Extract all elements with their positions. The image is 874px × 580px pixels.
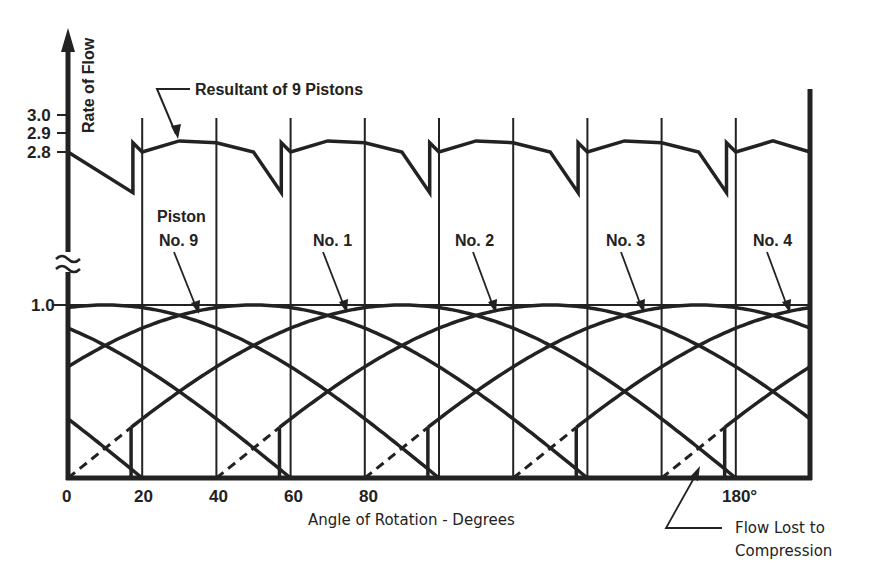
x-axis-title: Angle of Rotation - Degrees bbox=[308, 511, 515, 529]
piston-curve bbox=[725, 367, 810, 428]
resultant-annotation: Resultant of 9 Pistons bbox=[157, 81, 363, 139]
x-tick-60: 60 bbox=[284, 487, 303, 506]
piston-3-annotation: No. 3 bbox=[606, 232, 645, 313]
piston-9-label-line1: Piston bbox=[157, 208, 206, 225]
x-tick-20: 20 bbox=[134, 487, 153, 506]
piston-9-annotation: Piston No. 9 bbox=[157, 208, 206, 314]
vertical-grid-lines bbox=[142, 118, 736, 478]
piston-9-label-line2: No. 9 bbox=[159, 232, 198, 249]
piston-3-label: No. 3 bbox=[606, 232, 645, 249]
compression-loss-dashed bbox=[68, 427, 131, 478]
flow-lost-label-line2: Compression bbox=[735, 542, 832, 560]
y-axis bbox=[56, 28, 80, 480]
piston-4-label: No. 4 bbox=[753, 232, 792, 249]
y-tick-1-0: 1.0 bbox=[31, 296, 55, 315]
resultant-label: Resultant of 9 Pistons bbox=[195, 81, 363, 98]
compression-loss-dashed bbox=[513, 427, 576, 478]
piston-curve bbox=[68, 328, 291, 478]
compression-loss-dashed bbox=[216, 427, 279, 478]
x-tick-180: 180° bbox=[722, 487, 757, 506]
x-tick-40: 40 bbox=[209, 487, 228, 506]
y-axis-title: Rate of Flow bbox=[80, 37, 97, 133]
flow-lost-label-line1: Flow Lost to bbox=[735, 519, 825, 537]
piston-1-label: No. 1 bbox=[313, 232, 352, 249]
y-tick-2-9: 2.9 bbox=[27, 124, 51, 143]
y-axis-arrow-icon bbox=[61, 28, 75, 52]
compression-loss-dashed bbox=[365, 427, 428, 478]
piston-curve bbox=[576, 308, 810, 428]
piston-2-annotation: No. 2 bbox=[455, 232, 497, 313]
x-tick-0: 0 bbox=[62, 487, 71, 506]
piston-1-annotation: No. 1 bbox=[313, 232, 352, 313]
y-tick-3-0: 3.0 bbox=[27, 106, 51, 125]
piston-4-annotation: No. 4 bbox=[753, 232, 792, 313]
y-tick-2-8: 2.8 bbox=[27, 143, 51, 162]
piston-flow-chart: Rate of Flow 3.0 2.9 2.8 1.0 0 20 40 60 … bbox=[0, 0, 874, 580]
piston-curve bbox=[280, 305, 811, 427]
x-tick-80: 80 bbox=[359, 487, 378, 506]
piston-curve bbox=[68, 305, 439, 478]
arrowhead-icon bbox=[171, 124, 181, 139]
compression-loss-dashed bbox=[662, 427, 725, 478]
piston-2-label: No. 2 bbox=[455, 232, 494, 249]
